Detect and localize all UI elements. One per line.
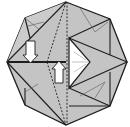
origami-diagram [0,0,130,127]
